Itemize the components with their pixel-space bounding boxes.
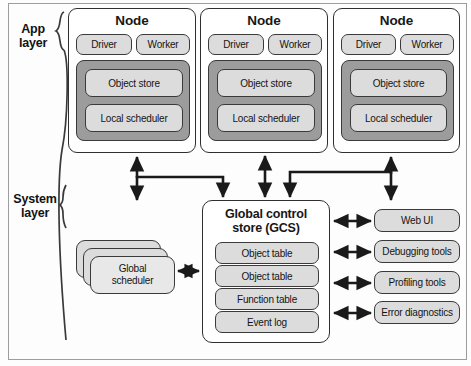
layer-label-app: App layer [6,22,60,50]
node-runtime-panel-2: Object store Local scheduler [208,60,322,141]
node-box-2[interactable]: Node Driver Worker Object store Local sc… [200,8,328,153]
layer-label-system-line1: System [4,192,66,206]
layer-label-system-line2: layer [4,206,66,220]
node-box-3[interactable]: Node Driver Worker Object store Local sc… [333,8,460,153]
gcs-row-function-table[interactable]: Function table [215,288,319,310]
node-title-1: Node [69,13,195,28]
worker-pill-1[interactable]: Worker [136,34,190,55]
node-runtime-panel-3: Object store Local scheduler [341,60,454,141]
tool-box-error-diagnostics[interactable]: Error diagnostics [374,301,460,324]
gcs-row-object-table-1[interactable]: Object table [215,242,319,264]
object-store-pill-2[interactable]: Object store [217,69,315,97]
node-title-2: Node [201,13,327,28]
node-box-1[interactable]: Node Driver Worker Object store Local sc… [68,8,196,153]
global-scheduler-label-line1: Global [112,263,154,275]
object-store-pill-3[interactable]: Object store [350,69,447,97]
object-store-pill-1[interactable]: Object store [85,69,183,97]
worker-pill-2[interactable]: Worker [268,34,322,55]
tool-box-profiling-tools[interactable]: Profiling tools [374,271,460,294]
layer-label-system: System layer [4,192,66,220]
gcs-row-event-log[interactable]: Event log [215,311,319,333]
driver-pill-3[interactable]: Driver [341,34,396,55]
node-runtime-panel-1: Object store Local scheduler [76,60,190,141]
worker-pill-3[interactable]: Worker [400,34,454,55]
gcs-row-object-table-2[interactable]: Object table [215,265,319,287]
layer-label-app-line1: App [6,22,60,36]
global-scheduler-label: Global scheduler [112,263,154,287]
tool-box-debugging-tools[interactable]: Debugging tools [374,240,460,263]
gcs-title-line2: store (GCS) [203,221,329,235]
driver-pill-2[interactable]: Driver [208,34,264,55]
driver-pill-1[interactable]: Driver [76,34,132,55]
gcs-title-line1: Global control [203,207,329,221]
layer-label-app-line2: layer [6,36,60,50]
tool-box-web-ui[interactable]: Web UI [374,209,460,232]
local-scheduler-pill-2[interactable]: Local scheduler [217,104,315,132]
local-scheduler-pill-3[interactable]: Local scheduler [350,104,447,132]
node-title-3: Node [334,13,459,28]
global-control-store-box[interactable]: Global control store (GCS) Object table … [202,200,330,343]
gcs-title: Global control store (GCS) [203,207,329,235]
global-scheduler-card-front[interactable]: Global scheduler [90,256,175,294]
local-scheduler-pill-1[interactable]: Local scheduler [85,104,183,132]
diagram-canvas: App layer System layer Node Driver Worke… [0,0,471,366]
global-scheduler-label-line2: scheduler [112,275,154,287]
